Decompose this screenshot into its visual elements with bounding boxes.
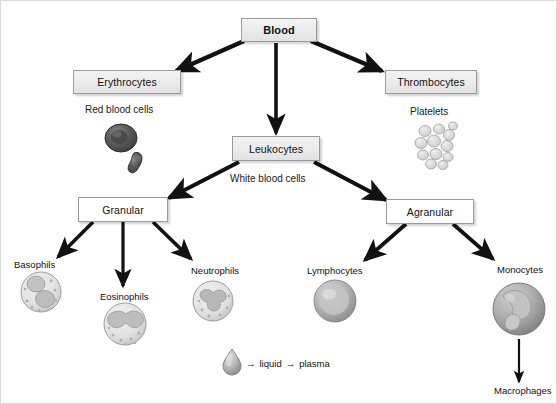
eosinophil-cell-figure xyxy=(104,303,146,345)
basophil-cell-figure xyxy=(21,272,61,312)
label-eosinophils: Eosinophils xyxy=(100,291,149,302)
arrow-blood-to-thrombocytes xyxy=(311,41,382,71)
node-blood[interactable]: Blood xyxy=(241,18,317,42)
node-thrombocytes[interactable]: Thrombocytes xyxy=(385,70,477,94)
plasma-droplet-figure xyxy=(223,349,241,375)
arrow-granular-to-basophils xyxy=(58,222,93,257)
label-basophils: Basophils xyxy=(14,259,55,270)
node-blood-label: Blood xyxy=(263,24,295,36)
monocyte-cell-figure xyxy=(493,283,545,335)
node-erythrocytes[interactable]: Erythrocytes xyxy=(73,70,181,94)
platelet-cluster-figure xyxy=(415,122,458,170)
plasma-note-liquid: liquid xyxy=(260,358,282,369)
plasma-note-plasma: plasma xyxy=(299,358,330,369)
caption-red-blood-cells: Red blood cells xyxy=(85,104,153,115)
red-blood-cell-figure xyxy=(105,124,142,173)
node-thrombocytes-label: Thrombocytes xyxy=(397,76,465,88)
plasma-note: → liquid → plasma xyxy=(246,358,330,369)
arrow-right-icon-1: → xyxy=(246,358,256,369)
arrow-agranular-to-lymphocytes xyxy=(365,224,406,260)
label-macrophages: Macrophages xyxy=(494,385,552,396)
node-granular-label: Granular xyxy=(102,204,144,216)
arrow-agranular-to-monocytes xyxy=(453,224,493,259)
node-granular[interactable]: Granular xyxy=(78,197,168,222)
lymphocyte-cell-figure xyxy=(314,280,356,322)
label-monocytes: Monocytes xyxy=(497,264,543,275)
arrow-right-icon-2: → xyxy=(286,358,296,369)
arrow-leukocytes-to-agranular xyxy=(314,162,386,200)
arrow-blood-to-erythrocytes xyxy=(176,41,244,71)
caption-white-blood-cells: White blood cells xyxy=(230,173,306,184)
caption-platelets: Platelets xyxy=(410,106,448,117)
arrow-granular-to-neutrophils xyxy=(153,222,191,259)
arrow-leukocytes-to-granular xyxy=(169,162,239,198)
node-leukocytes[interactable]: Leukocytes xyxy=(232,136,320,161)
diagram-canvas: Blood Erythrocytes Leukocytes Thrombocyt… xyxy=(0,0,557,404)
node-agranular-label: Agranular xyxy=(407,206,453,218)
label-neutrophils: Neutrophils xyxy=(191,265,239,276)
neutrophil-cell-figure xyxy=(193,281,233,321)
node-erythrocytes-label: Erythrocytes xyxy=(97,76,157,88)
node-agranular[interactable]: Agranular xyxy=(386,199,474,224)
label-lymphocytes: Lymphocytes xyxy=(307,265,363,276)
node-leukocytes-label: Leukocytes xyxy=(249,143,303,155)
